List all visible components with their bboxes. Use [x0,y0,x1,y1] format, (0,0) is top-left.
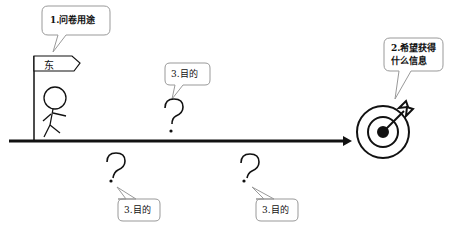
question-callout-text: 3.目的 [262,204,289,216]
callout-bubble-purpose [42,6,110,52]
question-mark-icon [107,153,125,183]
question-mark-icon [165,99,183,133]
flag-label: 东 [44,57,54,72]
stick-figure-icon [43,87,66,137]
diagram-canvas [0,0,458,234]
question-mark-icon [241,154,259,183]
goal-callout-line1: 2.希望获得 [391,42,436,54]
question-callout-text: 3.目的 [124,204,151,216]
question-callout-text: 3.目的 [171,68,198,80]
flag-icon [34,56,80,141]
purpose-callout-text: 1.问卷用途 [50,14,95,26]
goal-callout-line2: 什么信息 [391,55,427,67]
timeline-arrow [9,136,352,146]
